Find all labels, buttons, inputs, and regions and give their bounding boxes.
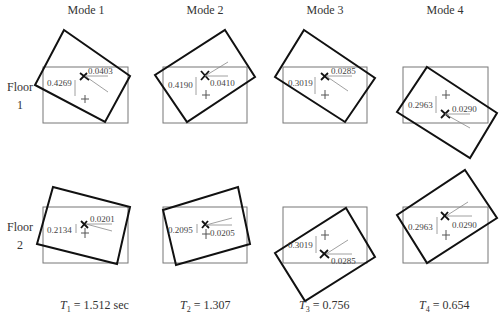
center-of-mass-displaced-icon — [201, 71, 209, 80]
vertical-displacement-value: 0.2963 — [408, 100, 433, 110]
rotation-line — [446, 202, 468, 216]
period-mode-4: T4 = 0.654 — [419, 298, 469, 314]
panel-mode1-floor1: 0.4269 0.0403 — [35, 30, 130, 123]
rotation-value: 0.0285 — [331, 66, 356, 76]
mode-shapes-figure: Mode 1 Mode 2 Mode 3 Mode 4 Floor 1 Floo… — [0, 0, 502, 328]
vertical-displacement-value: 0.3019 — [288, 78, 313, 88]
rotation-line — [86, 224, 112, 231]
header-mode-2: Mode 2 — [187, 3, 224, 17]
panel-mode2-floor1: 0.4190 0.0410 — [155, 30, 255, 123]
header-mode-3: Mode 3 — [307, 3, 344, 17]
period-value: = 1.512 sec — [71, 298, 129, 312]
center-of-mass-original — [81, 228, 89, 238]
period-value: = 1.307 — [191, 298, 231, 312]
panel-mode3-floor1: 0.3019 0.0285 — [275, 30, 375, 123]
vertical-displacement-value: 0.4269 — [47, 78, 72, 88]
center-of-mass-original — [202, 90, 210, 99]
floor-1-number: 1 — [17, 98, 23, 112]
vertical-displacement-value: 0.4190 — [168, 80, 193, 90]
rotation-value: 0.0201 — [90, 214, 115, 224]
rotation-value: 0.0410 — [210, 78, 235, 88]
vertical-displacement-value: 0.2963 — [408, 222, 433, 232]
panel-mode4-floor2: 0.2963 0.0290 — [397, 170, 497, 263]
center-of-mass-original — [81, 95, 89, 103]
panel-mode3-floor2: 0.3019 0.0285 — [275, 207, 375, 301]
rotation-line — [206, 218, 232, 225]
floor-2-label: Floor 2 — [7, 220, 33, 252]
rotation-value: 0.0290 — [452, 104, 477, 114]
period-value: = 0.756 — [310, 298, 350, 312]
panel-mode4-floor1: 0.2963 0.0290 — [397, 67, 497, 158]
rotation-line — [205, 62, 228, 76]
floor-1-word: Floor — [7, 80, 33, 94]
center-of-mass-original — [442, 90, 450, 99]
header-mode-1: Mode 1 — [68, 3, 105, 17]
rotation-value: 0.0290 — [452, 220, 477, 230]
floor-1-label: Floor 1 — [7, 80, 33, 112]
panel-mode1-floor2: 0.2134 0.0201 — [37, 187, 130, 264]
center-of-mass-original — [321, 90, 329, 99]
center-of-mass-original — [202, 229, 210, 239]
deformed-floor-outline — [397, 170, 497, 263]
period-mode-1: T1 = 1.512 sec — [60, 298, 129, 314]
rotation-line — [326, 240, 348, 254]
center-of-mass-displaced-icon — [321, 73, 329, 80]
period-mode-2: T2 = 1.307 — [180, 298, 230, 314]
rotation-value: 0.0403 — [88, 66, 113, 76]
floor-2-number: 2 — [17, 238, 23, 252]
center-of-mass-original — [442, 230, 450, 240]
center-of-mass-original — [321, 230, 329, 240]
header-mode-4: Mode 4 — [427, 3, 464, 17]
vertical-displacement-value: 0.2134 — [47, 225, 72, 235]
floor-2-word: Floor — [7, 220, 33, 234]
panel-mode2-floor2: 0.2095 0.0205 — [163, 187, 250, 265]
period-value: = 0.654 — [430, 298, 470, 312]
rotation-value: 0.0285 — [331, 256, 356, 266]
vertical-displacement-value: 0.2095 — [168, 225, 193, 235]
rotation-line — [326, 76, 348, 91]
rotation-line — [445, 114, 470, 128]
rotation-value: 0.0205 — [210, 228, 235, 238]
rotation-line — [85, 76, 108, 92]
vertical-displacement-value: 0.3019 — [288, 240, 313, 250]
